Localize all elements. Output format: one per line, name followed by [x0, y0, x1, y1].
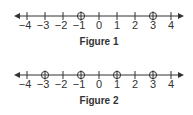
tick-label: 0: [96, 19, 102, 31]
tick-label: −2: [55, 19, 68, 31]
tick-label: −1: [73, 78, 86, 90]
tick-label: 3: [150, 19, 156, 31]
figure-2: −4−3−2−101234: [14, 71, 184, 91]
figure-1: −4−3−2−101234: [14, 12, 184, 32]
tick-label: −4: [19, 19, 32, 31]
tick-label: 4: [168, 19, 174, 31]
tick-label: 3: [150, 78, 156, 90]
right-arrow-icon: [178, 72, 184, 78]
right-arrow-icon: [178, 13, 184, 19]
tick-label: −1: [73, 19, 86, 31]
figure-1-caption: Figure 1: [80, 36, 119, 47]
figure-2-caption: Figure 2: [80, 95, 119, 106]
tick-label: 0: [96, 78, 102, 90]
tick-label: −4: [19, 78, 32, 90]
tick-label: 1: [114, 78, 120, 90]
tick-label: 4: [168, 78, 174, 90]
tick-label: −3: [37, 78, 50, 90]
tick-label: 1: [114, 19, 120, 31]
tick-label: −2: [55, 78, 68, 90]
tick-label: −3: [37, 19, 50, 31]
tick-label: 2: [132, 19, 138, 31]
tick-label: 2: [132, 78, 138, 90]
number-line-diagram: −4−3−2−101234 Figure 1 −4−3−2−101234 Fig…: [0, 0, 193, 115]
